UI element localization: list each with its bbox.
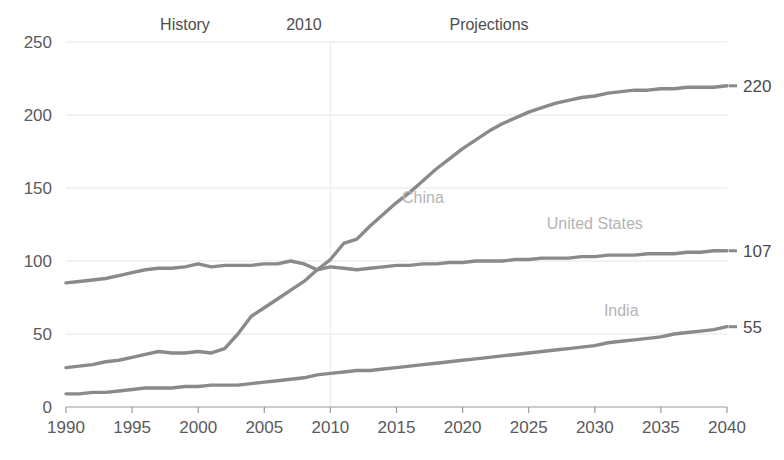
y-tick-label-200: 200 (24, 106, 52, 125)
annotation-projections: Projections (449, 16, 528, 33)
annotation-history: History (160, 16, 210, 33)
annotation-2010: 2010 (286, 16, 322, 33)
end-label-united-states: 107 (743, 242, 771, 261)
x-tick-label-2005: 2005 (245, 418, 283, 437)
x-tick-label-2035: 2035 (642, 418, 680, 437)
x-tick-label-2000: 2000 (179, 418, 217, 437)
x-tick-label-2025: 2025 (510, 418, 548, 437)
line-chart: 050100150200250 199019952000200520102015… (0, 0, 784, 460)
chart-container: 050100150200250 199019952000200520102015… (0, 0, 784, 460)
gridlines (66, 42, 727, 334)
end-label-india: 55 (743, 318, 762, 337)
x-tick-label-2010: 2010 (311, 418, 349, 437)
x-tick-label-1990: 1990 (47, 418, 85, 437)
chart-annotations: History2010ProjectionsChinaUnited States… (160, 16, 643, 319)
x-axis-tick-labels: 1990199520002005201020152020202520302035… (47, 418, 746, 437)
annotation-india: India (604, 302, 639, 319)
end-label-china: 220 (743, 77, 771, 96)
series-end-value-labels: 22010755 (729, 77, 771, 337)
series-line-india (66, 327, 727, 394)
y-axis-tick-labels: 050100150200250 (24, 33, 52, 417)
y-tick-label-100: 100 (24, 252, 52, 271)
x-tick-label-2040: 2040 (708, 418, 746, 437)
annotation-china: China (402, 189, 444, 206)
x-tick-label-2015: 2015 (378, 418, 416, 437)
y-tick-label-50: 50 (33, 325, 52, 344)
series-line-united-states (66, 251, 727, 283)
x-tick-label-2020: 2020 (444, 418, 482, 437)
annotation-united-states: United States (547, 215, 643, 232)
x-axis (66, 407, 727, 413)
x-tick-label-2030: 2030 (576, 418, 614, 437)
data-series-lines (66, 86, 727, 394)
y-tick-label-150: 150 (24, 179, 52, 198)
x-tick-label-1995: 1995 (113, 418, 151, 437)
y-tick-label-0: 0 (43, 398, 52, 417)
y-tick-label-250: 250 (24, 33, 52, 52)
